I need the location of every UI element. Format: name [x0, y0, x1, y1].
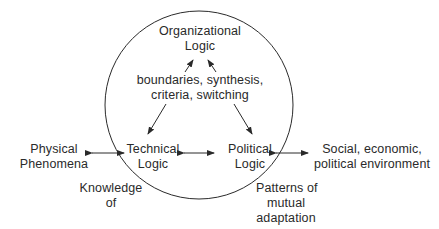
label-line: Political — [220, 142, 280, 157]
label-line: Physical — [18, 142, 90, 157]
node-social-environment: Social, economic, political environment — [308, 142, 436, 172]
node-political-logic: Political Logic — [220, 142, 280, 172]
arrow-to-organizational-right — [208, 60, 216, 72]
label-line: Knowledge — [78, 181, 144, 196]
annotation-mechanisms: boundaries, synthesis, criteria, switchi… — [135, 73, 265, 103]
label-line: Technical — [120, 142, 186, 157]
label-line: Logic — [120, 157, 186, 172]
label-line: political environment — [308, 157, 436, 172]
label-line: Logic — [155, 39, 245, 54]
label-line: Organizational — [155, 24, 245, 39]
arrow-to-technical — [148, 104, 166, 134]
arrow-to-political — [234, 104, 252, 134]
label-line: boundaries, synthesis, — [135, 73, 265, 88]
label-line: adaptation — [256, 211, 316, 226]
node-physical-phenomena: Physical Phenomena — [18, 142, 90, 172]
label-line: of — [78, 196, 144, 211]
arrow-to-organizational-left — [185, 60, 193, 72]
label-line: Phenomena — [18, 157, 90, 172]
annotation-knowledge-of: Knowledge of — [78, 181, 144, 211]
node-organizational-logic: Organizational Logic — [155, 24, 245, 54]
label-line: criteria, switching — [135, 88, 265, 103]
annotation-patterns-of-mutual-adaptation: Patterns of mutual adaptation — [256, 181, 316, 226]
label-line: mutual — [256, 196, 316, 211]
node-technical-logic: Technical Logic — [120, 142, 186, 172]
label-line: Social, economic, — [308, 142, 436, 157]
label-line: Patterns of — [256, 181, 316, 196]
label-line: Logic — [220, 157, 280, 172]
